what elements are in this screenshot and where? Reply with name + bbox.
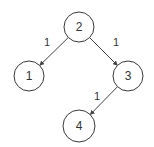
node-4: 4 — [63, 110, 95, 142]
node-1: 1 — [14, 61, 44, 91]
node-label: 2 — [76, 20, 83, 34]
edge-weight-label: 1 — [94, 90, 100, 102]
edges-layer: 111 — [40, 36, 119, 115]
node-2: 2 — [64, 12, 94, 42]
node-label: 3 — [125, 69, 132, 83]
edge-weight-label: 1 — [113, 36, 119, 48]
edge-weight-label: 1 — [44, 36, 50, 48]
tree-diagram: 111 2134 — [0, 0, 154, 147]
node-3: 3 — [113, 61, 143, 91]
edge-3-to-4: 1 — [90, 87, 117, 115]
node-label: 1 — [26, 69, 33, 83]
edge-2-to-3: 1 — [90, 36, 119, 65]
node-label: 4 — [76, 119, 83, 133]
nodes-layer: 2134 — [14, 12, 143, 142]
edge-2-to-1: 1 — [40, 36, 69, 66]
